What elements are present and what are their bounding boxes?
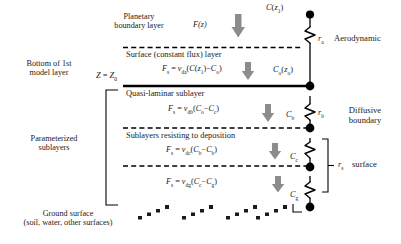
- surface-resistance-name: surface: [352, 160, 377, 170]
- parameterized-line2: sublayers: [8, 143, 100, 152]
- node-cg: [306, 203, 315, 212]
- surface-layer-flux-formula: Fs = vda(C(z1)−Co): [162, 64, 222, 73]
- pbl-line2: boundary layer: [96, 21, 182, 30]
- quasi-laminar-flux-formula: Fs = vdb(Co−Cc): [168, 104, 219, 113]
- bottom-model-line1: Bottom of 1st: [4, 59, 94, 68]
- flux-arrow-pbl: [232, 14, 246, 38]
- rs-group-bracket: [322, 139, 328, 192]
- resistance-rs-label: rs: [338, 160, 343, 169]
- concentration-cg-label: Cg: [290, 190, 298, 199]
- flux-fz-label: F(z): [193, 20, 207, 29]
- ground-line2: (soil, water, other surfaces): [0, 218, 136, 227]
- concentration-cc-label: Cc: [290, 152, 298, 161]
- parameterized-line1: Parameterized: [8, 134, 100, 143]
- flux-arrow-deposition-sublayer: [269, 143, 281, 160]
- quasi-laminar-sublayer-name: Quasi-laminar sublayer: [126, 89, 204, 98]
- resistor-rs-lower-zigzag: [305, 182, 315, 198]
- bottom-model-line2: model layer: [4, 68, 94, 77]
- resistor-network: [305, 10, 315, 211]
- aerodynamic-resistance-name: Aerodynamic: [334, 34, 381, 44]
- ground-line1: Ground surface: [0, 209, 136, 218]
- concentration-cb-label: Cb: [286, 110, 294, 119]
- concentration-co-z0-label: Co(zo): [273, 65, 293, 74]
- flux-arrow-ground: [272, 176, 284, 193]
- concentration-cz1-label: C(z1): [266, 3, 283, 12]
- height-z0-label: Z = Z0: [96, 71, 117, 80]
- node-co-z0: [306, 82, 315, 91]
- planetary-boundary-layer-label: Planetary boundary layer: [96, 12, 182, 30]
- pbl-line1: Planetary: [96, 12, 182, 21]
- diffusive-boundary-resistance-name: Diffusive boundary: [334, 106, 396, 125]
- node-cc: [306, 163, 315, 172]
- node-cb: [306, 124, 315, 133]
- node-c-z1: [306, 10, 314, 18]
- parameterized-sublayers-label: Parameterized sublayers: [8, 134, 100, 152]
- ground-flux-formula: Fs = vdg(Cc−Cg): [166, 177, 217, 186]
- ground-corner-bracket: [293, 204, 302, 212]
- rb-name-line2: boundary: [334, 116, 396, 126]
- ground-surface-hatching: [138, 205, 287, 220]
- ground-surface-label: Ground surface (soil, water, other surfa…: [0, 209, 136, 227]
- parameterized-sublayers-brace: [106, 90, 118, 205]
- deposition-sublayer-flux-formula: Fs = vdc(Cb−Cb): [166, 145, 217, 154]
- flux-arrow-surface-layer: [242, 62, 254, 80]
- surface-layer-name: Surface (constant flux) layer: [126, 50, 222, 59]
- resistor-rb-zigzag: [305, 104, 315, 120]
- resistor-ra-zigzag: [305, 27, 315, 43]
- bottom-of-model-layer-label: Bottom of 1st model layer: [4, 59, 94, 77]
- resistor-rs-upper-zigzag: [305, 142, 315, 158]
- deposition-sublayers-name: Sublayers resisting to deposition: [126, 131, 235, 140]
- resistance-rb-label: rb: [318, 108, 324, 117]
- flux-arrow-quasi-laminar: [262, 104, 274, 122]
- resistance-ra-label: ra: [318, 34, 324, 43]
